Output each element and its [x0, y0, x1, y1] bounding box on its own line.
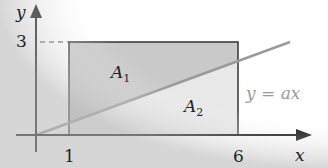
line-equation-label: y = ax [246, 83, 300, 103]
x-tick-1: 1 [64, 146, 75, 166]
y-tick-3: 3 [16, 31, 27, 51]
x-axis-label: x [295, 145, 305, 165]
x-tick-6: 6 [233, 146, 244, 166]
region-a2-label: A2 [184, 96, 203, 119]
region-a1-label: A1 [111, 62, 130, 85]
y-axis-label: y [16, 2, 26, 22]
diagram-canvas: y 3 1 6 x A1 A2 y = ax [0, 0, 328, 168]
